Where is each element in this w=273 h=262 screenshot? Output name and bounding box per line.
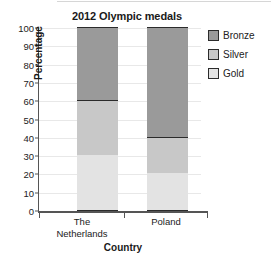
y-tick-mark-30: [35, 156, 39, 157]
y-axis-title: Percentage: [33, 26, 44, 80]
y-tick-mark-70: [35, 82, 39, 83]
legend: Bronze Silver Gold: [208, 26, 272, 83]
y-tick-label-20: 20: [23, 169, 34, 180]
segment-netherlands-silver[interactable]: [77, 100, 118, 155]
image-top-border: [57, 1, 271, 2]
legend-swatch-gold-icon: [208, 68, 219, 79]
plot-area: 100 90 80 70 60 50 40 30 20 10 0 Percent…: [38, 28, 201, 211]
legend-item-bronze[interactable]: Bronze: [208, 26, 272, 45]
y-tick-label-10: 10: [23, 187, 34, 198]
segment-netherlands-gold[interactable]: [77, 155, 118, 210]
y-tick-mark-50: [35, 119, 39, 120]
legend-swatch-silver-icon: [208, 49, 219, 60]
x-category-label-poland-line1: Poland: [121, 216, 211, 228]
legend-label-silver: Silver: [223, 49, 248, 60]
segment-netherlands-bronze[interactable]: [77, 27, 118, 100]
legend-item-silver[interactable]: Silver: [208, 45, 272, 64]
y-tick-label-100: 100: [18, 23, 34, 34]
x-category-label-line2: Netherlands: [37, 228, 127, 240]
y-tick-label-60: 60: [23, 96, 34, 107]
y-tick-mark-60: [35, 101, 39, 102]
legend-label-bronze: Bronze: [223, 30, 255, 41]
y-tick-mark-20: [35, 174, 39, 175]
y-tick-label-0: 0: [29, 206, 34, 217]
y-tick-mark-40: [35, 137, 39, 138]
legend-label-gold: Gold: [223, 68, 244, 79]
bar-poland[interactable]: [147, 28, 188, 211]
segment-poland-silver[interactable]: [147, 137, 188, 174]
bar-the-netherlands[interactable]: [77, 28, 118, 211]
chart-container: 2012 Olympic medals 100 90 80 70 60 50 4…: [0, 0, 273, 262]
x-category-label-line1: The: [37, 216, 127, 228]
segment-poland-gold[interactable]: [147, 173, 188, 210]
legend-item-gold[interactable]: Gold: [208, 64, 272, 83]
y-tick-label-40: 40: [23, 132, 34, 143]
y-tick-mark-10: [35, 192, 39, 193]
x-category-label-poland: Poland: [121, 216, 211, 228]
x-axis-title: Country: [38, 242, 208, 253]
x-axis-line: [38, 211, 208, 213]
x-category-label-the-netherlands: The Netherlands: [37, 216, 127, 240]
y-tick-label-30: 30: [23, 151, 34, 162]
chart-title: 2012 Olympic medals: [57, 10, 197, 22]
y-tick-label-50: 50: [23, 114, 34, 125]
segment-poland-bronze[interactable]: [147, 27, 188, 137]
legend-swatch-bronze-icon: [208, 30, 219, 41]
